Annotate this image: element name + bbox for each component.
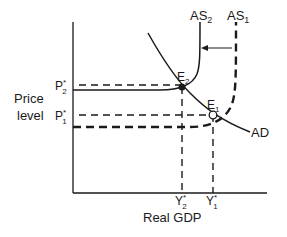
as2-label: AS2 <box>190 8 212 25</box>
as1-label: AS1 <box>227 8 249 25</box>
x-axis-label: Real GDP <box>143 210 202 225</box>
p2-label: P*2 <box>55 78 67 96</box>
y1-label: Y*1 <box>206 193 218 211</box>
ad-curve <box>148 33 250 132</box>
as-ad-diagram: Price level Real GDP AS2 AS1 AD E2 E1 P*… <box>0 0 287 237</box>
ad-label: AD <box>251 125 269 140</box>
shift-arrow-head-icon <box>201 45 208 51</box>
p1-label: P*1 <box>55 108 67 126</box>
e2-label: E2 <box>177 70 190 86</box>
e1-label: E1 <box>207 98 220 114</box>
y-axis-label-line2: level <box>17 108 44 123</box>
y-axis-label-line1: Price <box>14 91 44 106</box>
y2-label: Y*2 <box>175 193 187 211</box>
